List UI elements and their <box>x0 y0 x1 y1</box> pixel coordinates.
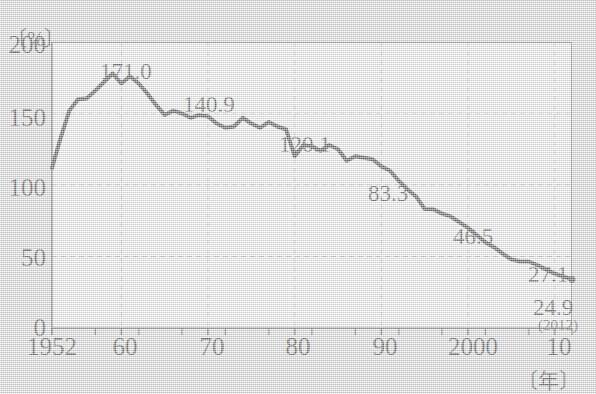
x-tick-label-1990: 90 <box>355 333 415 361</box>
x-tick-label-1980: 80 <box>268 333 328 361</box>
annotation-46-5: 46.5 <box>453 224 493 250</box>
x-tick-label-2000: 2000 <box>425 333 521 361</box>
x-tick-label-2010: 10 <box>529 333 589 361</box>
final-data-point-marker <box>569 276 576 283</box>
y-tick-label-200: 200 <box>0 31 46 59</box>
y-tick-label-150: 150 <box>0 104 46 132</box>
annotation-83-3: 83.3 <box>368 181 408 207</box>
annotation-171: 171.0 <box>100 59 152 85</box>
y-tick-label-100: 100 <box>0 174 46 202</box>
annotation-27-1: 27.1 <box>528 262 568 288</box>
x-tick-label-1952: 1952 <box>4 333 100 361</box>
y-tick-label-50: 50 <box>0 244 46 272</box>
annotation-120-1: 120.1 <box>279 132 331 158</box>
x-tick-label-1960: 60 <box>95 333 155 361</box>
x-tick-label-1970: 70 <box>182 333 242 361</box>
x-axis-unit-label: 〔年〕 <box>517 364 580 394</box>
annotation-year-2012: (2012) <box>538 317 578 334</box>
annotation-140-9: 140.9 <box>183 92 235 118</box>
